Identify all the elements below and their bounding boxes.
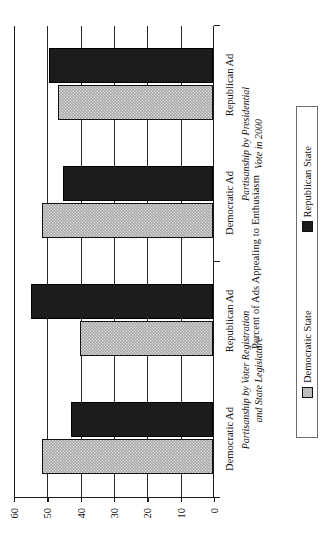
y-axis-tick-label: 40	[75, 508, 86, 519]
category-label: Democratic Ad	[224, 407, 235, 471]
y-axis-tick	[147, 497, 148, 502]
legend-item-republican-state: Republican State	[302, 146, 313, 232]
plot-area	[14, 26, 214, 498]
y-axis-tick	[81, 497, 82, 502]
bar-democratic-state	[42, 203, 213, 238]
bar-republican-state	[49, 48, 213, 83]
legend-label-republican: Republican State	[302, 146, 313, 217]
rotated-figure-wrapper: Percent of Ads Appealing to Enthusiasm D…	[0, 0, 330, 556]
category-label: Republican Ad	[224, 290, 235, 353]
chart-legend: Democratic State Republican State	[296, 106, 318, 438]
axis-edge-tick	[214, 497, 220, 498]
y-axis-tick-label: 20	[142, 508, 153, 519]
bar-democratic-state	[80, 321, 213, 356]
panel-separator-tick	[214, 261, 220, 262]
panel-label-line-2: Vote in 2000	[253, 87, 266, 201]
y-axis-tick	[181, 497, 182, 502]
bar-republican-state	[31, 284, 213, 319]
bar-democratic-state	[58, 85, 213, 120]
category-label: Republican Ad	[224, 54, 235, 117]
panel-label-line-2: and State Legislature	[253, 311, 266, 450]
category-label: Democratic Ad	[224, 171, 235, 235]
bar-chart-figure: Percent of Ads Appealing to Enthusiasm D…	[0, 0, 330, 556]
legend-item-democratic-state: Democratic State	[302, 310, 313, 398]
y-axis-tick-label: 60	[9, 508, 20, 519]
panel-label-line-1: Partisanship by Voter Registration	[240, 311, 253, 450]
bar-republican-state	[63, 166, 213, 201]
bar-republican-state	[71, 402, 213, 437]
y-axis-tick-label: 10	[175, 508, 186, 519]
bar-democratic-state	[42, 439, 213, 474]
axis-edge-tick	[214, 25, 220, 26]
y-axis-tick	[114, 497, 115, 502]
y-axis-tick-label: 50	[42, 508, 53, 519]
legend-swatch-republican-icon	[302, 221, 313, 232]
panel-label: Partisanship by PresidentialVote in 2000	[240, 87, 265, 201]
panel-label-line-1: Partisanship by Presidential	[240, 87, 253, 201]
plot-top-border	[14, 26, 15, 498]
legend-swatch-democratic-icon	[302, 387, 313, 398]
y-axis-tick-label: 0	[209, 508, 220, 513]
y-axis-tick-label: 30	[109, 508, 120, 519]
legend-label-democratic: Democratic State	[302, 310, 313, 383]
panel-label: Partisanship by Voter Registrationand St…	[240, 311, 265, 450]
y-axis-tick	[47, 497, 48, 502]
gridline	[47, 26, 48, 497]
